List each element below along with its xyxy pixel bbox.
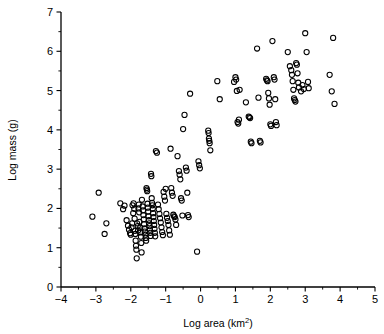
data-point [90,214,95,219]
y-tick-label: 3 [47,163,53,175]
x-tick-label: −3 [90,293,103,305]
data-point [256,95,261,100]
data-point [243,100,248,105]
data-point [194,249,199,254]
data-point [187,91,192,96]
data-point [329,89,334,94]
plot-canvas: −4−3−2−1012345 01234567 Log area (km2) L… [0,0,384,334]
data-point [184,168,189,173]
x-axis-tick-labels: −4−3−2−1012345 [55,293,378,305]
y-tick-label: 1 [47,242,53,254]
data-point [217,97,222,102]
x-tick-label: 4 [337,293,343,305]
y-tick-label: 4 [47,124,53,136]
data-point [170,193,175,198]
data-point [290,79,295,84]
data-point [180,213,185,218]
data-point [305,79,310,84]
data-point [254,46,259,51]
data-point [197,166,202,171]
x-tick-label: 3 [302,293,308,305]
y-axis-tick-labels: 01234567 [47,6,53,293]
data-point [174,222,179,227]
y-axis-title: Log mass (g) [6,119,18,180]
y-tick-label: 5 [47,85,53,97]
x-tick-label: 1 [232,293,238,305]
x-tick-label: −1 [159,293,172,305]
data-point [285,49,290,54]
data-point [168,146,173,151]
x-tick-label: 0 [197,293,203,305]
data-point [182,112,187,117]
data-point [185,190,190,195]
data-point [96,190,101,195]
data-point [266,96,271,101]
data-point [160,233,165,238]
data-point [124,218,129,223]
data-point [139,197,144,202]
data-point [208,148,213,153]
data-point [175,154,180,159]
major-tick-marks [57,12,376,292]
x-tick-label: 2 [267,293,273,305]
data-point [303,31,308,36]
data-point [134,256,139,261]
y-tick-label: 6 [47,45,53,57]
data-point [295,71,300,76]
data-point [181,126,186,131]
data-point [273,97,278,102]
data-point [215,79,220,84]
data-point [133,238,138,243]
x-tick-label: −2 [125,293,138,305]
data-point [306,86,311,91]
data-point [139,250,144,255]
data-point [267,102,272,107]
data-point [154,150,159,155]
minor-tick-marks [58,32,357,290]
y-tick-label: 0 [47,281,53,293]
data-point [304,49,309,54]
data-point-group [90,31,337,261]
data-point [102,231,107,236]
data-point [291,87,296,92]
data-point [332,101,337,106]
data-point [104,221,109,226]
x-tick-label: −4 [55,293,68,305]
x-axis-title: Log area (km2) [183,316,253,330]
y-tick-label: 7 [47,6,53,18]
data-point [274,123,279,128]
data-point [331,35,336,40]
y-tick-label: 2 [47,202,53,214]
data-point [327,72,332,77]
data-point [266,90,271,95]
x-tick-label: 5 [372,293,378,305]
data-point [270,38,275,43]
scatter-plot-figure: −4−3−2−1012345 01234567 Log area (km2) L… [0,0,384,334]
